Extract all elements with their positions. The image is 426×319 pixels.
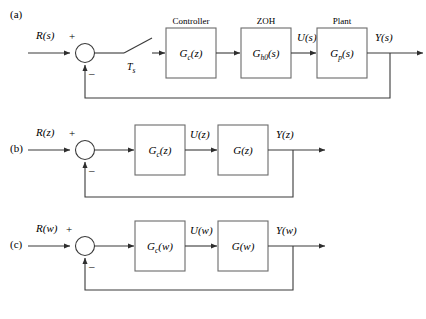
panel-a-sampler-label: Ts: [127, 61, 136, 75]
panel-a-label: (a): [10, 8, 23, 21]
block-diagram-figure: (a) R(s) + – Ts Controller Gc(z) ZOH Gh0…: [0, 0, 426, 319]
panel-a-plant-caption: Plant: [333, 16, 352, 26]
panel-a-input-label: R(s): [35, 29, 55, 42]
panel-c-mid-signal-label: U(w): [190, 224, 213, 237]
panel-c-output-label: Y(w): [276, 224, 297, 237]
panel-a-output-label: Y(s): [375, 31, 393, 44]
panel-a: (a) R(s) + – Ts Controller Gc(z) ZOH Gh0…: [10, 8, 423, 98]
panel-c-label: (c): [10, 238, 23, 251]
panel-b: (b) R(z) + – Gc(z) U(z) G(z) Y(z): [10, 125, 325, 197]
panel-c-plant-label: G(w): [232, 240, 255, 253]
panel-b-plant-label: G(z): [233, 144, 253, 157]
panel-c-minus-sign: –: [88, 260, 95, 272]
panel-b-mid-signal-label: U(z): [190, 128, 210, 141]
panel-a-minus-sign: –: [88, 67, 95, 79]
panel-a-summing-junction: [76, 44, 95, 63]
panel-a-zoh-caption: ZOH: [257, 16, 276, 26]
panel-b-input-label: R(z): [35, 126, 55, 139]
panel-c: (c) R(w) + – Gc(w) U(w) G(w) Y(w): [10, 221, 325, 290]
panel-b-minus-sign: –: [88, 164, 95, 176]
panel-b-output-label: Y(z): [276, 128, 294, 141]
panel-a-sampler-switch: [124, 38, 152, 53]
panel-b-summing-junction: [76, 141, 95, 160]
panel-c-input-label: R(w): [35, 222, 58, 235]
panel-a-mid-signal-label: U(s): [297, 31, 317, 44]
panel-b-label: (b): [10, 142, 23, 155]
panel-a-controller-caption: Controller: [173, 16, 210, 26]
panel-a-plus-sign: +: [69, 30, 75, 42]
panel-c-plus-sign: +: [66, 223, 72, 235]
diagram-canvas: (a) R(s) + – Ts Controller Gc(z) ZOH Gh0…: [0, 0, 426, 319]
panel-b-plus-sign: +: [69, 127, 75, 139]
panel-c-summing-junction: [76, 237, 95, 256]
